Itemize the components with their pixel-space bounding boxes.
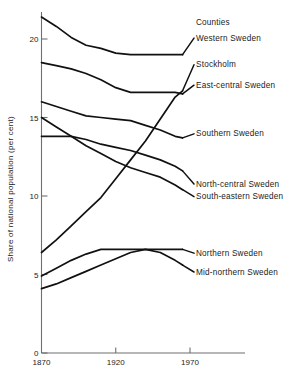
leader-lines-group <box>183 38 194 272</box>
legend-label-north-central-sweden: North-central Sweden <box>196 180 279 189</box>
legend-label-south-eastern-sweden: South-eastern Sweden <box>196 192 284 201</box>
y-axis-group: 05101520 Share of national population (p… <box>6 12 48 358</box>
y-tick-label: 15 <box>30 114 39 123</box>
x-tick-label: 1970 <box>181 358 199 367</box>
legend-label-southern-sweden: Southern Sweden <box>196 129 264 138</box>
series-line-north-central-sweden <box>42 136 183 171</box>
leader-line-southern-sweden <box>183 134 194 138</box>
leader-line-south-eastern-sweden <box>183 190 194 197</box>
y-tick-label: 10 <box>30 192 39 201</box>
leader-line-north-central-sweden <box>183 171 194 184</box>
chart-canvas: 05101520 Share of national population (p… <box>0 0 295 375</box>
y-axis-title: Share of national population (per cent) <box>6 116 15 262</box>
y-tick-label: 5 <box>34 271 39 280</box>
y-tick-label: 20 <box>30 35 39 44</box>
leader-line-northern-sweden <box>183 249 194 253</box>
series-line-south-eastern-sweden <box>42 118 183 190</box>
series-paths-group <box>42 17 183 289</box>
series-line-mid-northern-sweden <box>42 249 183 288</box>
x-tick-label: 1870 <box>33 358 51 367</box>
legend-label-stockholm: Stockholm <box>196 60 236 69</box>
legend-group: Counties Western SwedenStockholmEast-cen… <box>196 18 284 277</box>
x-tick-label: 1920 <box>107 358 125 367</box>
legend-label-mid-northern-sweden: Mid-northern Sweden <box>196 268 278 277</box>
legend-label-east-central-sweden: East-central Sweden <box>196 81 276 90</box>
y-tick-label: 0 <box>34 349 39 358</box>
legend-label-northern-sweden: Northern Sweden <box>196 249 263 258</box>
leader-line-western-sweden <box>183 38 194 55</box>
leader-line-mid-northern-sweden <box>183 265 194 272</box>
series-line-east-central-sweden <box>42 63 183 94</box>
x-axis-group: 187019201970 <box>33 348 245 368</box>
legend-heading: Counties <box>196 18 230 27</box>
legend-label-western-sweden: Western Sweden <box>196 34 261 43</box>
series-line-southern-sweden <box>42 102 183 138</box>
y-tick-group: 05101520 <box>30 35 48 358</box>
population-share-line-chart: 05101520 Share of national population (p… <box>0 0 295 375</box>
series-line-stockholm <box>42 91 183 253</box>
x-tick-group: 187019201970 <box>33 348 200 368</box>
series-line-western-sweden <box>42 17 183 55</box>
